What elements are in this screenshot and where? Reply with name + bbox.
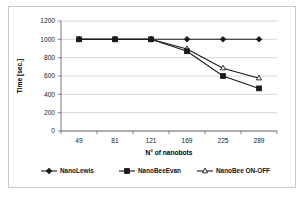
x-tick-label: 289 xyxy=(253,137,264,144)
legend-label: NanoBeeEvan xyxy=(138,167,181,174)
series-nanobee-on-off xyxy=(76,36,261,80)
y-axis-title: Time [sec.] xyxy=(16,59,24,93)
data-point-marker xyxy=(220,37,226,43)
y-tick-label: 400 xyxy=(44,91,55,98)
series-nanobee-evan xyxy=(77,37,262,91)
legend-item-nanobee-on-off[interactable]: NanoBee ON-OFF xyxy=(197,167,270,174)
chart-container: 1200 1000 800 600 400 200 0 Time [sec.] xyxy=(8,6,296,188)
x-tick-label: 169 xyxy=(181,137,192,144)
x-tick-labels: 49 81 121 169 225 289 xyxy=(75,137,264,144)
plot-area-wrapper: 1200 1000 800 600 400 200 0 Time [sec.] xyxy=(9,7,295,187)
x-axis-title: N° of nanobots xyxy=(146,149,193,156)
x-tick-label: 49 xyxy=(75,137,83,144)
triangle-marker-icon xyxy=(202,168,207,173)
data-point-marker xyxy=(185,49,190,54)
diamond-marker-icon xyxy=(46,168,52,174)
series-markers-nanobee-on-off xyxy=(76,36,261,80)
legend-label: NanoBee ON-OFF xyxy=(216,167,270,174)
series-line-nanobee-evan xyxy=(79,39,259,88)
y-tick-label: 0 xyxy=(51,127,55,134)
y-tick-label: 1200 xyxy=(40,17,55,24)
y-tick-label: 800 xyxy=(44,54,55,61)
y-tick-label: 600 xyxy=(44,72,55,79)
x-tick-label: 81 xyxy=(111,137,119,144)
gridlines xyxy=(61,21,277,131)
y-tick-label: 200 xyxy=(44,109,55,116)
y-axis xyxy=(58,21,61,131)
chart-legend: NanoLewis NanoBeeEvan NanoBee ON-OFF xyxy=(41,167,270,174)
x-axis xyxy=(61,131,277,134)
series-nanolewis xyxy=(76,37,262,43)
y-tick-label: 1000 xyxy=(40,36,55,43)
data-point-marker xyxy=(257,86,262,91)
legend-item-nanolewis[interactable]: NanoLewis xyxy=(41,167,94,174)
data-point-marker xyxy=(221,74,226,79)
x-tick-label: 225 xyxy=(217,137,228,144)
legend-label: NanoLewis xyxy=(60,167,94,174)
data-point-marker xyxy=(184,37,190,43)
data-point-marker xyxy=(256,37,262,43)
square-marker-icon xyxy=(125,169,130,174)
line-chart-svg: 1200 1000 800 600 400 200 0 Time [sec.] xyxy=(9,7,295,187)
legend-item-nanobee-evan[interactable]: NanoBeeEvan xyxy=(119,167,181,174)
x-tick-label: 121 xyxy=(145,137,156,144)
y-tick-labels: 1200 1000 800 600 400 200 0 xyxy=(40,17,55,134)
